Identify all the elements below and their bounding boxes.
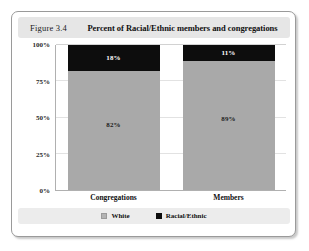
- bar-segment-value-label: 11%: [222, 49, 236, 57]
- bar-segment-white: 89%: [183, 61, 275, 190]
- y-axis-tick-label: 0%: [20, 187, 50, 195]
- y-axis-labels: 0%25%50%75%100%: [18, 42, 50, 205]
- legend-label: White: [111, 212, 129, 220]
- x-axis-tick-label: Members: [213, 193, 243, 202]
- legend-label: Racial/Ethnic: [166, 212, 207, 220]
- figure-header: Figure 3.4 Percent of Racial/Ethnic memb…: [18, 17, 290, 38]
- bar-group: 89%11%Members: [183, 45, 275, 190]
- bar-segment-value-label: 18%: [106, 54, 120, 62]
- figure-frame: Figure 3.4 Percent of Racial/Ethnic memb…: [11, 11, 296, 237]
- legend-entry: White: [101, 212, 129, 220]
- legend-swatch-icon: [101, 213, 107, 219]
- legend-entry: Racial/Ethnic: [156, 212, 207, 220]
- bar-segment-racial-ethnic: 11%: [183, 45, 275, 61]
- figure-number: Figure 3.4: [30, 23, 67, 33]
- bar-column: 89%11%Members: [183, 45, 275, 190]
- y-axis-tick-label: 50%: [20, 114, 50, 122]
- chart-legend: WhiteRacial/Ethnic: [18, 208, 290, 224]
- plot-region: 0%25%50%75%100% 82%18%Congregations89%11…: [18, 42, 290, 205]
- bar-segment-white: 82%: [68, 71, 160, 190]
- bar-segment-value-label: 82%: [68, 121, 160, 129]
- y-axis-tick-label: 75%: [20, 78, 50, 86]
- bar-column: 82%18%Congregations: [68, 45, 160, 190]
- y-axis-tick-label: 100%: [20, 41, 50, 49]
- bar-segment-value-label: 89%: [183, 115, 275, 123]
- y-axis-tick-label: 25%: [20, 151, 50, 159]
- plot-canvas: 82%18%Congregations89%11%Members: [55, 45, 286, 191]
- figure-title: Percent of Racial/Ethnic members and con…: [80, 23, 285, 33]
- bar-group: 82%18%Congregations: [68, 45, 160, 190]
- legend-swatch-icon: [156, 213, 162, 219]
- x-axis-tick-label: Congregations: [90, 193, 137, 202]
- bar-segment-racial-ethnic: 18%: [68, 45, 160, 71]
